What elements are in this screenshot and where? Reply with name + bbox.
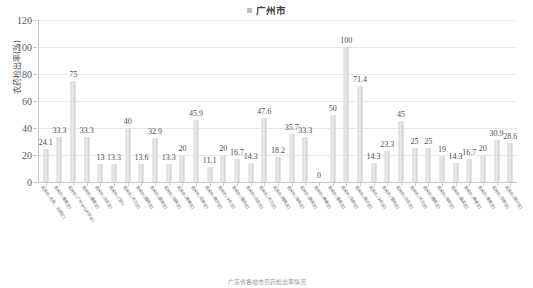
bar-value-label: 0 bbox=[317, 172, 321, 180]
bar-slot[interactable]: 14.3 bbox=[244, 20, 258, 182]
bar[interactable] bbox=[494, 140, 499, 182]
bar[interactable] bbox=[426, 148, 431, 182]
bar-slot[interactable]: 13.3 bbox=[107, 20, 121, 182]
bar[interactable] bbox=[453, 163, 458, 182]
bar[interactable] bbox=[112, 164, 117, 182]
bar-slot[interactable]: 33.3 bbox=[80, 20, 94, 182]
bar[interactable] bbox=[139, 164, 144, 182]
bar[interactable] bbox=[357, 86, 362, 182]
bar[interactable] bbox=[166, 164, 171, 182]
bar-slot[interactable]: 20 bbox=[476, 20, 490, 182]
bar[interactable] bbox=[98, 164, 103, 182]
bar[interactable] bbox=[71, 81, 76, 182]
bar[interactable] bbox=[467, 159, 472, 182]
bar-value-label: 20 bbox=[479, 145, 487, 153]
y-tick-label: 20 bbox=[2, 150, 32, 161]
bar-slot[interactable]: 19 bbox=[435, 20, 449, 182]
y-tick-mark bbox=[33, 182, 37, 183]
bar-slot[interactable]: 45.9 bbox=[189, 20, 203, 182]
bar[interactable] bbox=[43, 149, 48, 182]
y-tick-mark bbox=[33, 128, 37, 129]
bar-slot[interactable]: 24.1 bbox=[39, 20, 53, 182]
y-tick-label: 120 bbox=[2, 15, 32, 26]
bar[interactable] bbox=[398, 121, 403, 182]
bar[interactable] bbox=[57, 137, 62, 182]
bar-slot[interactable]: 20 bbox=[176, 20, 190, 182]
bar-value-label: 33.3 bbox=[298, 127, 312, 135]
bar-value-label: 75 bbox=[69, 71, 77, 79]
bar-slot[interactable]: 14.3 bbox=[449, 20, 463, 182]
bar[interactable] bbox=[262, 118, 267, 182]
bar-value-label: 40 bbox=[124, 118, 132, 126]
bar-slot[interactable]: 33.3 bbox=[298, 20, 312, 182]
bar-slot[interactable]: 13.3 bbox=[162, 20, 176, 182]
y-tick-mark bbox=[33, 47, 37, 48]
x-axis-category-labels: 韶关市(名贵、北菜区)韶关市(番禺区)韶关市(广州中山大学区)韶关市(番禺区)韶… bbox=[38, 184, 516, 262]
bar[interactable] bbox=[412, 148, 417, 182]
bar[interactable] bbox=[84, 137, 89, 182]
bar[interactable] bbox=[508, 143, 513, 182]
bar-slot[interactable]: 23.3 bbox=[380, 20, 394, 182]
plot-area: 24.133.37533.31313.34013.632.913.32045.9… bbox=[38, 20, 517, 183]
bar-chart: 广州市 农药检出率(%) 020406080100120 24.133.3753… bbox=[0, 0, 533, 288]
bar-slot[interactable]: 18.2 bbox=[271, 20, 285, 182]
bar[interactable] bbox=[480, 155, 485, 182]
bar-slot[interactable]: 50 bbox=[326, 20, 340, 182]
bar[interactable] bbox=[385, 151, 390, 182]
bar-slot[interactable]: 30.9 bbox=[490, 20, 504, 182]
bar-slot[interactable]: 75 bbox=[66, 20, 80, 182]
bar[interactable] bbox=[275, 157, 280, 182]
bar-slot[interactable]: 16.7 bbox=[462, 20, 476, 182]
bar-slot[interactable]: 32.9 bbox=[148, 20, 162, 182]
bar[interactable] bbox=[439, 156, 444, 182]
bar[interactable] bbox=[125, 128, 130, 182]
bar[interactable] bbox=[330, 115, 335, 183]
bar-value-label: 19 bbox=[438, 146, 446, 154]
bar[interactable] bbox=[344, 47, 349, 182]
bar-value-label: 24.1 bbox=[39, 139, 53, 147]
bar-value-label: 14.3 bbox=[367, 153, 381, 161]
bar-slot[interactable]: 13 bbox=[94, 20, 108, 182]
bar[interactable] bbox=[194, 120, 199, 182]
bar-slot[interactable]: 25 bbox=[421, 20, 435, 182]
bar-slot[interactable]: 45 bbox=[394, 20, 408, 182]
bar-series-guangzhou: 24.133.37533.31313.34013.632.913.32045.9… bbox=[39, 20, 517, 182]
bar-slot[interactable]: 35.7 bbox=[285, 20, 299, 182]
bar-value-label: 20 bbox=[219, 145, 227, 153]
chart-caption: 广东省各地市农药检出率情况 bbox=[0, 277, 533, 286]
bar[interactable] bbox=[153, 138, 158, 182]
bar[interactable] bbox=[235, 159, 240, 182]
bar-value-label: 13.3 bbox=[162, 154, 176, 162]
bar[interactable] bbox=[371, 163, 376, 182]
bar-value-label: 13.3 bbox=[107, 154, 121, 162]
bar[interactable] bbox=[289, 134, 294, 182]
bar-value-label: 33.3 bbox=[80, 127, 94, 135]
y-tick-mark bbox=[33, 74, 37, 75]
bar[interactable] bbox=[248, 163, 253, 182]
bar-value-label: 30.9 bbox=[490, 130, 504, 138]
bar[interactable] bbox=[303, 137, 308, 182]
bar-slot[interactable]: 28.6 bbox=[503, 20, 517, 182]
bar-slot[interactable]: 11.1 bbox=[203, 20, 217, 182]
bar-slot[interactable]: 71.4 bbox=[353, 20, 367, 182]
bar-slot[interactable]: 25 bbox=[408, 20, 422, 182]
bar-value-label: 25 bbox=[424, 138, 432, 146]
bar-slot[interactable]: 20 bbox=[217, 20, 231, 182]
bar-slot[interactable]: 16.7 bbox=[230, 20, 244, 182]
bar-slot[interactable]: 40 bbox=[121, 20, 135, 182]
bar-value-label: 32.9 bbox=[148, 128, 162, 136]
y-tick-mark bbox=[33, 101, 37, 102]
bar-slot[interactable]: 14.3 bbox=[367, 20, 381, 182]
bar-slot[interactable]: 0 bbox=[312, 20, 326, 182]
bar-value-label: 100 bbox=[340, 37, 352, 45]
bar-slot[interactable]: 100 bbox=[339, 20, 353, 182]
bar-slot[interactable]: 13.6 bbox=[135, 20, 149, 182]
bar[interactable] bbox=[207, 167, 212, 182]
bar-slot[interactable]: 33.3 bbox=[53, 20, 67, 182]
bar[interactable] bbox=[180, 155, 185, 182]
bar-slot[interactable]: 47.6 bbox=[258, 20, 272, 182]
bar-value-label: 14.3 bbox=[449, 153, 463, 161]
bar-value-label: 33.3 bbox=[52, 127, 66, 135]
y-tick-label: 40 bbox=[2, 123, 32, 134]
bar[interactable] bbox=[221, 155, 226, 182]
